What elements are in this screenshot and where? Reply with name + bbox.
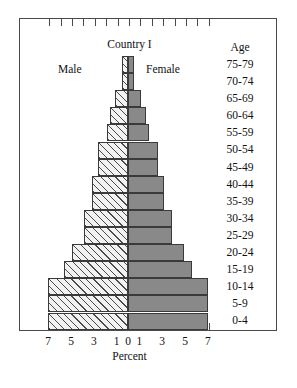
bar-female-0-4 (128, 313, 208, 330)
female-series-label: Female (146, 63, 180, 75)
x-tick-label-12: 5 (182, 333, 188, 349)
x-tick-label-4: 3 (91, 333, 97, 349)
male-series-label: Male (58, 63, 82, 75)
bar-female-65-69 (128, 90, 141, 107)
bar-female-5-9 (128, 295, 208, 312)
bar-male-20-24 (72, 244, 128, 261)
bar-male-60-64 (110, 107, 128, 124)
age-column: Age 75-7970-7465-6960-6455-5950-5445-494… (209, 38, 271, 330)
bar-female-70-74 (128, 73, 134, 90)
bar-female-25-29 (128, 227, 172, 244)
age-label-20-24: 20-24 (209, 244, 271, 261)
axis-tick-top-11 (175, 19, 176, 26)
x-tick-label-0: 7 (45, 333, 51, 349)
age-label-5-9: 5-9 (209, 295, 271, 312)
x-tick-label-8: 1 (137, 333, 143, 349)
axis-tick-top-3 (83, 19, 84, 26)
bar-male-10-14 (48, 278, 128, 295)
bar-female-35-39 (128, 193, 164, 210)
bar-female-75-79 (128, 56, 134, 73)
bar-male-15-19 (64, 261, 128, 278)
bar-male-40-44 (92, 176, 128, 193)
axis-tick-top-1 (61, 19, 62, 26)
age-label-45-49: 45-49 (209, 159, 271, 176)
age-column-heading: Age (209, 38, 271, 56)
age-label-15-19: 15-19 (209, 261, 271, 278)
age-label-55-59: 55-59 (209, 124, 271, 141)
age-label-35-39: 35-39 (209, 193, 271, 210)
x-tick-label-2: 5 (68, 333, 74, 349)
x-tick-label-14: 7 (205, 333, 211, 349)
bar-male-0-4 (48, 313, 128, 330)
age-label-65-69: 65-69 (209, 90, 271, 107)
axis-tick-top-8 (140, 19, 141, 26)
axis-tick-top-9 (152, 19, 153, 26)
bar-female-50-54 (128, 142, 158, 159)
x-axis-label-text: Percent (112, 350, 146, 362)
age-label-25-29: 25-29 (209, 227, 271, 244)
bar-male-65-69 (115, 90, 128, 107)
bar-female-55-59 (128, 124, 149, 141)
x-tick-label-10: 3 (159, 333, 165, 349)
bar-female-60-64 (128, 107, 146, 124)
bar-male-35-39 (92, 193, 128, 210)
age-label-50-54: 50-54 (209, 141, 271, 158)
bar-male-45-49 (98, 159, 128, 176)
x-tick-label-7: 0 (125, 333, 131, 349)
x-tick-label-6: 1 (114, 333, 120, 349)
bar-male-25-29 (84, 227, 128, 244)
x-axis-label: Percent (0, 350, 297, 362)
axis-tick-top-14 (209, 19, 210, 26)
axis-tick-top-7 (129, 19, 130, 26)
bar-female-40-44 (128, 176, 164, 193)
bar-male-30-34 (84, 210, 128, 227)
bar-female-30-34 (128, 210, 172, 227)
axis-tick-top-5 (106, 19, 107, 26)
bar-female-45-49 (128, 159, 158, 176)
bar-male-55-59 (107, 124, 128, 141)
age-label-30-34: 30-34 (209, 210, 271, 227)
axis-tick-top-2 (72, 19, 73, 26)
bar-female-20-24 (128, 244, 184, 261)
age-label-70-74: 70-74 (209, 73, 271, 90)
x-axis-tick-labels: 753101357 (19, 333, 277, 349)
chart-title-text: Country I (107, 38, 151, 50)
axis-tick-top-10 (163, 19, 164, 26)
axis-tick-top-13 (197, 19, 198, 26)
age-label-75-79: 75-79 (209, 56, 271, 73)
age-label-60-64: 60-64 (209, 107, 271, 124)
axis-tick-top-12 (186, 19, 187, 26)
age-label-10-14: 10-14 (209, 278, 271, 295)
axis-tick-top-4 (95, 19, 96, 26)
bar-male-50-54 (98, 142, 128, 159)
age-label-0-4: 0-4 (209, 312, 271, 329)
axis-tick-top-0 (49, 19, 50, 26)
axis-tick-top-6 (118, 19, 119, 26)
age-label-40-44: 40-44 (209, 176, 271, 193)
bar-female-15-19 (128, 261, 192, 278)
bar-female-10-14 (128, 278, 208, 295)
bar-male-5-9 (48, 295, 128, 312)
